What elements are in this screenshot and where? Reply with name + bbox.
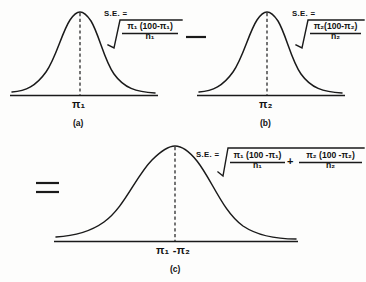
panel-a-axis-label: π₁ xyxy=(72,99,85,110)
equals-operator-graphic xyxy=(36,183,59,192)
panel-b-caption: (b) xyxy=(260,119,271,128)
panel-a-caption: (a) xyxy=(73,119,83,128)
panel-c-formula-fraction-term2: π₂ (100 -π₂) n₂ xyxy=(299,151,362,170)
panel-b-formula-fraction: π₂(100-π₂) n₂ xyxy=(310,22,361,41)
panel-c-se-prefix: S.E. = xyxy=(196,151,219,159)
panel-c-formula-denominator-term1: n₁ xyxy=(230,161,285,171)
panel-c-formula-fraction-term1: π₁ (100 -π₁) n₁ xyxy=(230,151,285,170)
panel-c-axis-label: π₁ -π₂ xyxy=(156,245,190,256)
statistics-figure: S.E. = π₁ (100-π₁) n₁ π₁ (a) S.E. = π₂(1… xyxy=(0,0,366,282)
panel-c-formula-plus-operator: + xyxy=(287,155,293,167)
panel-a-formula-fraction: π₁ (100-π₁) n₁ xyxy=(122,22,178,41)
figure-vector-layer xyxy=(0,0,366,282)
panel-a-se-prefix: S.E. = xyxy=(104,10,127,18)
panel-b-formula-denominator: n₂ xyxy=(310,32,361,42)
panel-b-se-prefix: S.E. = xyxy=(292,10,315,18)
panel-a-formula-denominator: n₁ xyxy=(122,32,178,42)
panel-c-caption: (c) xyxy=(170,265,180,274)
panel-c-formula-denominator-term2: n₂ xyxy=(299,161,362,171)
panel-b-axis-label: π₂ xyxy=(259,99,273,110)
